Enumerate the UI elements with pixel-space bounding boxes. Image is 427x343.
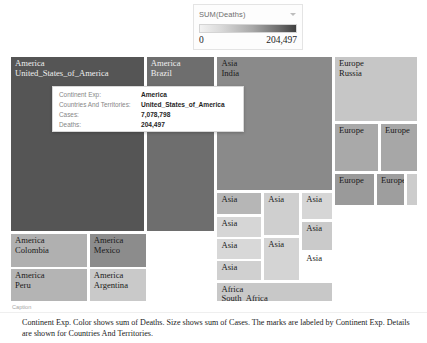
treemap-tile[interactable]: Asia [301,251,332,281]
legend-max-value: 204,497 [266,35,299,45]
treemap-tile-label: AmericaUnited_States_of_America [11,57,144,78]
treemap-tile-label: Asia [217,217,261,229]
treemap-tile[interactable]: AmericaUnited_States_of_America [10,56,145,232]
tooltip-value: 204,497 [141,121,165,128]
treemap-tile[interactable]: Asia [263,237,300,281]
caption-label: Caption [12,304,31,310]
treemap-tile[interactable]: Asia [263,192,300,236]
legend-scale: 0 204,497 [199,35,299,45]
treemap-tile[interactable]: Asia [216,192,262,215]
treemap-tile-label: AmericaColombia [11,234,87,255]
treemap-tile[interactable]: Asia [301,221,332,251]
treemap-tile-label: Asia [302,222,331,234]
treemap-tile-label: Asia [302,193,331,205]
treemap-tile[interactable]: Asia [301,192,332,220]
treemap-tile[interactable]: AmericaMexico [89,233,148,267]
legend-header: SUM(Deaths) [199,8,297,21]
legend-min-value: 0 [199,35,204,45]
treemap-tile-label: AsiaIndia [217,57,331,78]
legend-gradient-bar [199,24,297,33]
tooltip-key: Continent Exp: [59,91,141,98]
treemap-tile[interactable]: Europe [334,123,379,172]
treemap-tile-label: Asia [302,252,331,264]
treemap-tile[interactable]: Europe [380,123,418,172]
color-legend[interactable]: SUM(Deaths) 0 204,497 [193,4,303,50]
treemap-tile-label: Europe [377,174,404,186]
treemap-tile[interactable] [406,173,418,206]
treemap-tile-label: AfricaSouth_Africa [217,283,331,302]
treemap-tile[interactable]: AmericaColombia [10,233,88,267]
tooltip-row: Continent Exp:America [59,91,238,101]
tooltip-value: America [141,91,167,98]
treemap-tile-label: Asia [264,238,299,250]
treemap-tile[interactable]: Asia [216,260,262,280]
treemap-tile-label: EuropeRussia [335,57,417,78]
treemap-tile-label: Europe [335,174,374,186]
treemap-tile[interactable]: Europe [376,173,405,206]
treemap-tile-label: AmericaMexico [90,234,147,255]
tooltip-row: Deaths:204,497 [59,121,238,131]
treemap-tile-label [407,174,417,176]
treemap-tile-label: AmericaBrazil [147,57,214,78]
treemap-tile-label: Europe [381,124,417,136]
treemap-tile[interactable]: AfricaSouth_Africa [216,282,332,302]
treemap-tile-label: AmericaPeru [11,269,87,290]
caption-text: Continent Exp. Color shows sum of Deaths… [22,318,412,339]
treemap-tile-label: Asia [217,193,261,205]
tooltip-key: Deaths: [59,121,141,128]
tooltip-key: Countries And Territories: [59,101,141,108]
chevron-down-icon[interactable] [290,13,296,16]
treemap-tile-label: Asia [217,239,261,251]
treemap-tile[interactable]: Europe [334,173,375,206]
tooltip-value: 7,078,798 [141,111,170,118]
caption-divider [0,312,427,313]
treemap-tile[interactable]: AmericaArgentina [89,268,148,302]
tooltip-value: United_States_of_America [141,101,225,108]
tooltip: Continent Exp:AmericaCountries And Terri… [52,86,244,132]
treemap-tile-label: Asia [217,261,261,273]
treemap-tile[interactable]: EuropeRussia [334,56,418,122]
treemap-tile-label: AmericaArgentina [90,269,147,290]
treemap-tile[interactable]: Asia [216,216,262,237]
treemap-tile[interactable]: AmericaPeru [10,268,88,302]
tooltip-key: Cases: [59,111,141,118]
treemap-tile-label: Asia [264,193,299,205]
legend-title: SUM(Deaths) [199,10,246,19]
treemap-tile[interactable]: Asia [216,238,262,259]
treemap-tile-label: Europe [335,124,378,136]
tooltip-row: Countries And Territories:United_States_… [59,101,238,111]
treemap-tile[interactable]: AmericaBrazil [146,56,215,232]
tooltip-row: Cases:7,078,798 [59,111,238,121]
